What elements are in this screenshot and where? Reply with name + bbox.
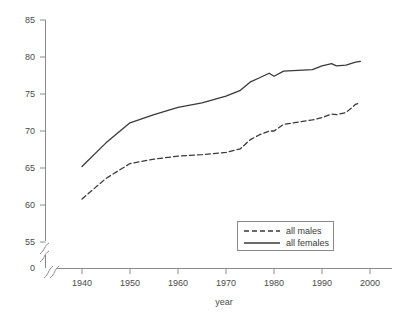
life-expectancy-line-chart: 85 80 75 70 65 60 55 0 1940 1	[0, 0, 399, 323]
x-tick-label-1980: 1980	[264, 278, 284, 288]
y-tick-label-75: 75	[25, 89, 35, 99]
x-axis: 1940 1950 1960 1970 1980 1990 2000 year	[44, 266, 392, 307]
legend-label-all-females: all females	[286, 238, 330, 248]
chart-canvas: 85 80 75 70 65 60 55 0 1940 1	[0, 0, 399, 323]
y-tick-label-85: 85	[25, 15, 35, 25]
y-tick-label-60: 60	[25, 200, 35, 210]
x-tick-label-1940: 1940	[72, 278, 92, 288]
legend-label-all-males: all males	[286, 226, 322, 236]
x-axis-title: year	[215, 297, 233, 307]
series-line-all-females	[82, 61, 360, 166]
series-line-all-males	[82, 103, 360, 199]
y-tick-label-55: 55	[25, 237, 35, 247]
x-tick-label-1950: 1950	[120, 278, 140, 288]
x-tick-label-2000: 2000	[360, 278, 380, 288]
y-tick-label-80: 80	[25, 52, 35, 62]
y-tick-label-zero: 0	[30, 263, 35, 273]
y-tick-label-70: 70	[25, 126, 35, 136]
x-tick-label-1960: 1960	[168, 278, 188, 288]
legend: all males all females	[238, 222, 334, 251]
y-tick-label-65: 65	[25, 163, 35, 173]
y-axis: 85 80 75 70 65 60 55 0	[25, 15, 49, 273]
x-tick-label-1970: 1970	[216, 278, 236, 288]
series-group	[82, 61, 360, 199]
x-tick-label-1990: 1990	[312, 278, 332, 288]
